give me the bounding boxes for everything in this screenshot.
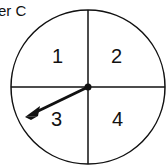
section-label-1: 1 <box>52 45 63 67</box>
section-label-3: 3 <box>51 108 62 130</box>
section-label-4: 4 <box>112 108 123 130</box>
section-label-2: 2 <box>111 45 122 67</box>
spinner-diagram: 1 2 3 4 <box>0 0 166 166</box>
